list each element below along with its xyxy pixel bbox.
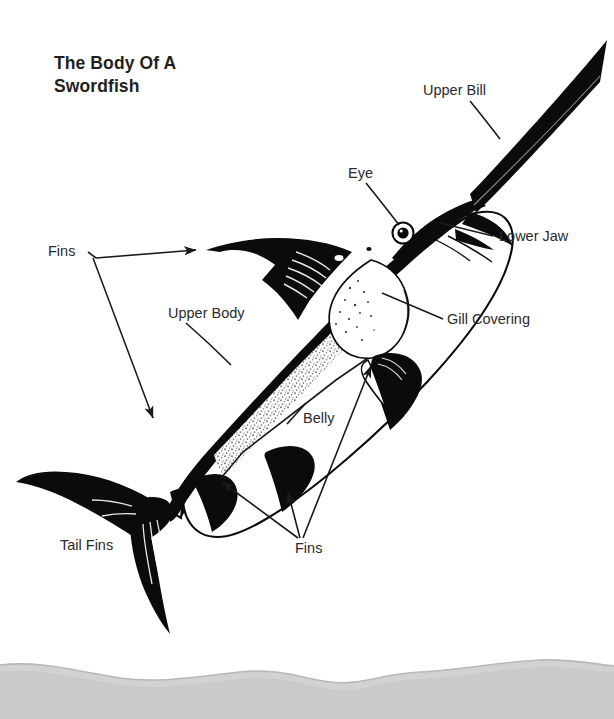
- label-fins-top: Fins: [48, 244, 75, 259]
- label-belly: Belly: [303, 411, 334, 426]
- swordfish-illustration: [0, 0, 614, 719]
- label-upper-bill: Upper Bill: [423, 83, 486, 98]
- label-eye: Eye: [348, 166, 373, 181]
- label-gill-covering: Gill Covering: [447, 312, 530, 327]
- eye: [393, 223, 414, 244]
- lateral-pore: [366, 247, 371, 251]
- label-fins-bottom: Fins: [295, 541, 322, 556]
- page-title: The Body Of A Swordfish: [54, 52, 176, 99]
- label-upper-body: Upper Body: [168, 306, 245, 321]
- label-tail-fins: Tail Fins: [60, 538, 113, 553]
- label-lower-jaw: Lower Jaw: [499, 229, 568, 244]
- lateral-spot: [335, 255, 344, 261]
- diagram-canvas: The Body Of A Swordfish Upper Bill Eye L…: [0, 0, 614, 719]
